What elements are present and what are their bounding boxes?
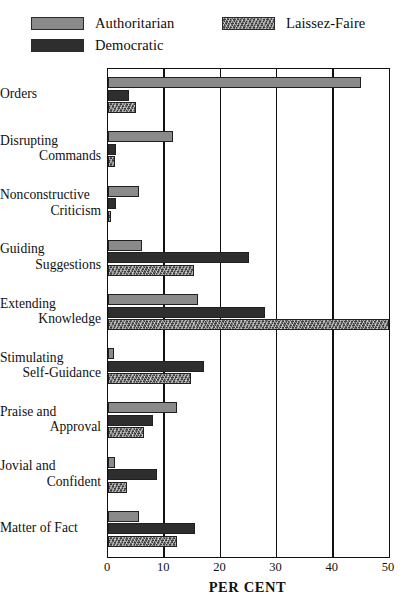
- category-label-disrupting-commands: DisruptingCommands: [0, 133, 101, 164]
- category-label-line2: Approval: [0, 419, 101, 435]
- category-label-nonconstructive-criticism: NonconstructiveCriticism: [0, 187, 101, 218]
- legend-swatch-laissez-faire: [222, 17, 275, 30]
- category-label-line2: Suggestions: [0, 257, 101, 273]
- bar-laissez-faire-guiding-suggestions: [108, 265, 194, 276]
- category-label-guiding-suggestions: GuidingSuggestions: [0, 241, 101, 272]
- bar-democratic-guiding-suggestions: [108, 252, 249, 263]
- category-label-line1: Praise and: [0, 404, 101, 420]
- category-label-line2: Self-Guidance: [0, 365, 101, 381]
- bar-democratic-matter-of-fact: [108, 523, 195, 534]
- bar-laissez-faire-jovial-and-confident: [108, 482, 127, 493]
- bar-laissez-faire-praise-and-approval: [108, 427, 144, 438]
- bar-democratic-stimulating-self-guidance: [108, 361, 204, 372]
- category-label-line1: Matter of Fact: [0, 520, 101, 536]
- bar-laissez-faire-disrupting-commands: [108, 156, 115, 167]
- bar-series-container: [108, 69, 389, 557]
- bar-democratic-extending-knowledge: [108, 307, 265, 318]
- category-axis-labels: OrdersDisruptingCommandsNonconstructiveC…: [0, 68, 101, 556]
- bar-authoritarian-orders: [108, 77, 361, 88]
- bar-democratic-orders: [108, 90, 129, 101]
- bar-authoritarian-extending-knowledge: [108, 294, 198, 305]
- x-tick-label-30: 30: [269, 560, 282, 575]
- x-tick-label-40: 40: [326, 560, 339, 575]
- category-label-matter-of-fact: Matter of Fact: [0, 520, 101, 536]
- category-label-line2: Commands: [0, 148, 101, 164]
- bar-laissez-faire-extending-knowledge: [108, 319, 389, 330]
- category-label-line1: Disrupting: [0, 133, 101, 149]
- bar-authoritarian-stimulating-self-guidance: [108, 348, 114, 359]
- legend-label-authoritarian: Authoritarian: [95, 16, 174, 30]
- category-label-orders: Orders: [0, 86, 101, 102]
- bar-chart: OrdersDisruptingCommandsNonconstructiveC…: [0, 60, 413, 597]
- category-label-line1: Guiding: [0, 241, 101, 257]
- x-tick-label-0: 0: [104, 560, 110, 575]
- category-label-line1: Nonconstructive: [0, 187, 101, 203]
- category-label-extending-knowledge: ExtendingKnowledge: [0, 296, 101, 327]
- category-label-line2: Knowledge: [0, 311, 101, 327]
- bar-democratic-disrupting-commands: [108, 144, 116, 155]
- bar-democratic-nonconstructive-criticism: [108, 198, 116, 209]
- legend-label-democratic: Democratic: [95, 38, 164, 52]
- legend-swatch-democratic: [31, 39, 84, 52]
- bar-authoritarian-jovial-and-confident: [108, 457, 115, 468]
- category-label-line1: Jovial and: [0, 458, 101, 474]
- bar-authoritarian-disrupting-commands: [108, 131, 173, 142]
- bar-authoritarian-matter-of-fact: [108, 511, 139, 522]
- chart-legend: Authoritarian Laissez-Faire Democratic: [0, 0, 413, 60]
- bar-laissez-faire-matter-of-fact: [108, 536, 177, 547]
- bar-laissez-faire-stimulating-self-guidance: [108, 373, 191, 384]
- legend-swatch-authoritarian: [31, 17, 84, 30]
- bar-authoritarian-nonconstructive-criticism: [108, 186, 139, 197]
- x-tick-label-50: 50: [382, 560, 395, 575]
- x-axis-title: PER CENT: [107, 579, 388, 596]
- category-label-line1: Orders: [0, 86, 101, 102]
- bar-laissez-faire-orders: [108, 102, 136, 113]
- legend-item-authoritarian: Authoritarian: [31, 16, 174, 30]
- legend-item-democratic: Democratic: [31, 38, 164, 52]
- category-label-line2: Criticism: [0, 203, 101, 219]
- category-label-praise-and-approval: Praise andApproval: [0, 404, 101, 435]
- plot-area: [107, 68, 390, 558]
- category-label-jovial-and-confident: Jovial andConfident: [0, 458, 101, 489]
- category-label-line2: Confident: [0, 474, 101, 490]
- x-tick-label-20: 20: [213, 560, 226, 575]
- bar-authoritarian-guiding-suggestions: [108, 240, 142, 251]
- legend-label-laissez-faire: Laissez-Faire: [286, 16, 365, 30]
- x-tick-label-10: 10: [157, 560, 170, 575]
- category-label-line1: Stimulating: [0, 350, 101, 366]
- bar-democratic-jovial-and-confident: [108, 469, 157, 480]
- x-axis-ticks: 01020304050: [0, 560, 413, 580]
- legend-item-laissez-faire: Laissez-Faire: [222, 16, 365, 30]
- category-label-line1: Extending: [0, 296, 101, 312]
- bar-laissez-faire-nonconstructive-criticism: [108, 211, 111, 222]
- category-label-stimulating-self-guidance: StimulatingSelf-Guidance: [0, 350, 101, 381]
- bar-democratic-praise-and-approval: [108, 415, 153, 426]
- bar-authoritarian-praise-and-approval: [108, 402, 177, 413]
